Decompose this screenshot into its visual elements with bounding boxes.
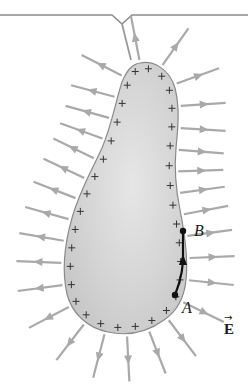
field-arrowhead-icon: [208, 253, 217, 261]
field-arrowhead-icon: [170, 42, 178, 52]
field-arrowhead-icon: [193, 73, 203, 81]
field-arrowhead-icon: [199, 101, 208, 109]
field-arrowhead-icon: [33, 258, 42, 266]
field-arrowhead-icon: [132, 33, 140, 43]
field-arrowhead-icon: [76, 128, 86, 136]
field-arrowhead-icon: [124, 355, 132, 364]
field-arrowhead-icon: [197, 147, 206, 155]
field-arrowhead-icon: [36, 234, 46, 242]
point-b-marker: [180, 228, 186, 234]
field-symbol-e: E: [224, 322, 234, 337]
field-arrowhead-icon: [152, 348, 159, 358]
conductor-field-diagram: [0, 0, 248, 391]
field-arrowhead-icon: [49, 188, 59, 195]
field-arrowhead-icon: [202, 207, 212, 215]
field-arrowhead-icon: [197, 167, 206, 175]
point-b-label: B: [194, 223, 204, 239]
field-arrowhead-icon: [199, 125, 208, 133]
top-bracket: [0, 15, 248, 60]
point-a-label: A: [182, 300, 192, 316]
point-a-marker: [172, 292, 178, 298]
